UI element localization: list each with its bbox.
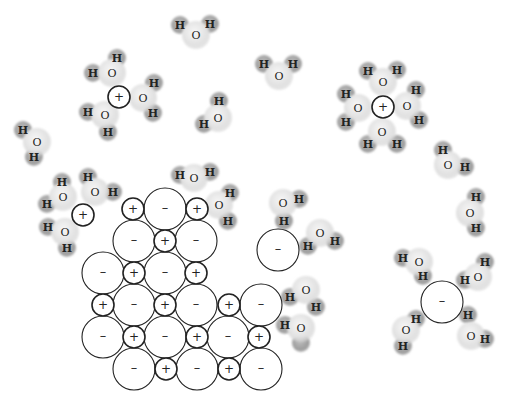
hydrogen-label: H [88,67,98,80]
anion-ion: – [175,284,217,326]
oxygen-label: O [278,197,287,210]
hydrogen-label: H [225,187,235,200]
plus-sign: + [160,234,170,248]
water-molecule: OHH [171,163,219,192]
hydrogen-label: H [411,313,421,326]
minus-sign: – [258,296,265,311]
hydrogen-label: H [460,274,470,287]
plus-sign: + [378,100,388,114]
diagram-canvas: OHHOHHOHHOHHOHHOHHOHHOHHOHHOHHOHHOHHOHHO… [0,0,510,412]
cation-ion: + [186,198,208,220]
oxygen-label: O [465,207,474,220]
cation-ion: + [123,262,145,284]
minus-sign: – [258,360,265,375]
oxygen-label: O [315,227,324,240]
water-molecule: OHH [255,55,302,90]
hydrogen-label: H [148,107,158,120]
water-molecule: OHH [456,253,494,291]
plus-sign: + [254,330,264,344]
oxygen-label: O [274,70,283,83]
hydrogen-label: H [259,58,269,71]
oxygen-label: O [90,186,99,199]
anion-ion: – [144,316,186,358]
hydrogen-label: H [414,114,424,127]
water-molecule: OHH [171,15,219,49]
minus-sign: – [131,296,138,311]
hydrogen-label: H [62,242,72,255]
cation-ion: + [92,294,114,316]
hydrogen-label: H [438,144,448,157]
hydrogen-label: H [285,291,295,304]
minus-sign: – [162,328,169,343]
salt-dissolution-diagram: OHHOHHOHHOHHOHHOHHOHHOHHOHHOHHOHHOHHOHHO… [0,0,510,412]
plus-sign: + [192,330,202,344]
oxygen-label: O [60,226,69,239]
minus-sign: – [162,200,169,215]
oxygen-label: O [377,126,386,139]
cation-ion: + [218,294,240,316]
anion-ion: – [176,348,218,390]
oxygen-label: O [213,112,222,125]
hydrogen-label: H [29,151,39,164]
anion-ion: – [113,220,155,262]
anion-ion: – [421,281,463,323]
hydrogen-label: H [175,19,185,32]
oxygen-label: O [138,92,147,105]
oxygen-label: O [378,76,387,89]
plus-sign: + [128,202,138,216]
cation-ion: + [218,358,240,380]
hydrogen-label: H [341,88,351,101]
plus-sign: + [98,298,108,312]
water-molecule: OHH [39,218,79,257]
minus-sign: – [131,232,138,247]
water-molecule: OHH [393,81,428,129]
anion-ion: – [257,229,299,271]
plus-sign: + [114,90,124,104]
water-molecule: OHH [14,121,51,166]
anion-ion: – [175,220,217,262]
minus-sign: – [225,328,232,343]
hydrogen-label: H [480,333,490,346]
anion-ion: – [113,284,155,326]
anion-ion: – [240,348,282,390]
hydrogen-label: H [294,193,304,206]
water-molecule: OHH [359,61,406,96]
cation-ion: + [248,326,270,348]
hydrogen-label: H [205,166,215,179]
oxygen-label: O [58,191,67,204]
water-molecule: OHH [129,74,163,122]
hydrogen-label: H [288,58,298,71]
water-molecule: OHH [84,49,126,87]
hydrogen-label: H [392,138,402,151]
oxygen-label: O [473,271,482,284]
water-molecule: OH [276,314,315,352]
water-molecule: OHH [392,310,425,355]
water-molecule: OHH [79,168,122,206]
hydrogen-label: H [83,106,93,119]
hydrogen-label: H [330,235,340,248]
anion-ion: – [144,252,186,294]
hydrogen-label: H [471,222,481,235]
plus-sign: + [224,298,234,312]
hydrogen-label: H [149,77,159,90]
plus-sign: + [160,298,170,312]
minus-sign: – [275,241,282,256]
hydrogen-label: H [223,215,233,228]
oxygen-label: O [189,172,198,185]
plus-sign: + [129,266,139,280]
cation-ion: + [154,230,176,252]
hydrogen-label: H [471,191,481,204]
water-molecule: OHH [269,189,308,230]
hydrogen-label: H [311,301,321,314]
anion-ion: – [207,316,249,358]
water-molecule: OHH [38,173,77,213]
hydrogen-label: H [175,169,185,182]
minus-sign: – [193,296,200,311]
oxygen-label: O [191,29,200,42]
minus-sign: – [100,264,107,279]
cation-ion: + [186,326,208,348]
cation-ion: + [155,358,177,380]
water-molecule: OHH [205,184,239,230]
hydrogen-label: H [398,340,408,353]
oxygen-label: O [443,159,452,172]
